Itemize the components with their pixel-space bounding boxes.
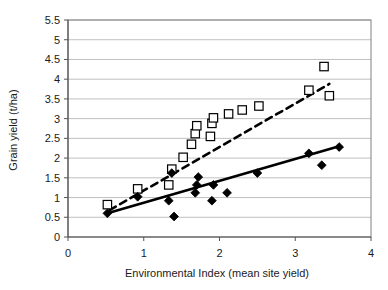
data-point-open-square [165, 181, 173, 189]
chart-figure: 01234 00.511.522.533.544.555.5 Environme… [0, 0, 388, 290]
data-point-open-square [305, 86, 313, 94]
data-point-open-square [209, 114, 217, 122]
x-tick-label: 2 [216, 247, 222, 259]
data-point-open-square [187, 140, 195, 148]
data-point-open-square [193, 122, 201, 130]
data-point-open-square [103, 200, 111, 208]
x-tick-label: 0 [65, 247, 71, 259]
data-point-open-square [179, 153, 187, 161]
data-point-open-square [255, 102, 263, 110]
y-tick-label: 3 [54, 113, 60, 125]
data-point-open-square [320, 62, 328, 70]
x-tick-label: 3 [292, 247, 298, 259]
y-tick-label: 4 [54, 73, 60, 85]
y-axis-title: Grain yield (t/ha) [7, 89, 19, 170]
x-tick-label: 1 [141, 247, 147, 259]
y-tick-label: 2.5 [45, 132, 60, 144]
data-point-open-square [206, 132, 214, 140]
y-tick-label: 5.5 [45, 14, 60, 26]
y-tick-label: 0.5 [45, 211, 60, 223]
scatter-plot: 01234 00.511.522.533.544.555.5 Environme… [0, 0, 388, 290]
y-tick-label: 3.5 [45, 93, 60, 105]
x-tick-label: 4 [368, 247, 374, 259]
y-tick-label: 4.5 [45, 53, 60, 65]
data-point-open-square [238, 106, 246, 114]
data-point-open-square [224, 110, 232, 118]
y-tick-label: 5 [54, 34, 60, 46]
data-point-open-square [191, 129, 199, 137]
x-axis-title: Environmental Index (mean site yield) [125, 267, 309, 279]
y-tick-label: 0 [54, 231, 60, 243]
y-tick-label: 1 [54, 192, 60, 204]
y-tick-label: 2 [54, 152, 60, 164]
data-point-open-square [325, 92, 333, 100]
y-tick-label: 1.5 [45, 172, 60, 184]
